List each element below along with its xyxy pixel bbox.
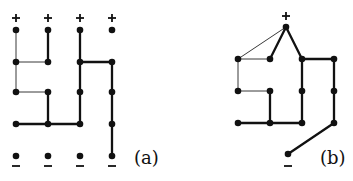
node-dot <box>109 153 116 160</box>
node-dot <box>331 120 338 127</box>
node-dot <box>235 88 242 95</box>
node-dot <box>77 59 84 66</box>
node-dot <box>77 89 84 96</box>
node-dot <box>267 120 274 127</box>
node-dot <box>45 153 52 160</box>
node-dot <box>77 121 84 128</box>
node-dot <box>13 153 20 160</box>
node-dot <box>109 27 116 34</box>
node-dot <box>13 121 20 128</box>
panel-b-label: (b) <box>320 147 346 168</box>
node-dot <box>235 56 242 63</box>
node-dot <box>109 89 116 96</box>
panel-a-label: (a) <box>134 147 159 168</box>
node-dot <box>45 27 52 34</box>
node-dot <box>13 27 20 34</box>
node-dot <box>285 151 292 158</box>
node-dot <box>267 56 274 63</box>
node-dot <box>331 88 338 95</box>
node-dot <box>45 121 52 128</box>
node-dot <box>45 59 52 66</box>
node-dot <box>235 120 242 127</box>
node-dot <box>77 153 84 160</box>
node-dot <box>13 59 20 66</box>
node-dot <box>13 89 20 96</box>
node-dot <box>331 56 338 63</box>
thick-edge <box>286 27 302 59</box>
node-dot <box>109 59 116 66</box>
node-dot <box>299 120 306 127</box>
node-dot <box>299 88 306 95</box>
node-dot <box>299 56 306 63</box>
node-dot <box>45 89 52 96</box>
node-dot <box>77 27 84 34</box>
lattice-diagram <box>0 0 353 181</box>
node-dot <box>267 88 274 95</box>
node-dot <box>109 121 116 128</box>
node-dot <box>283 24 290 31</box>
